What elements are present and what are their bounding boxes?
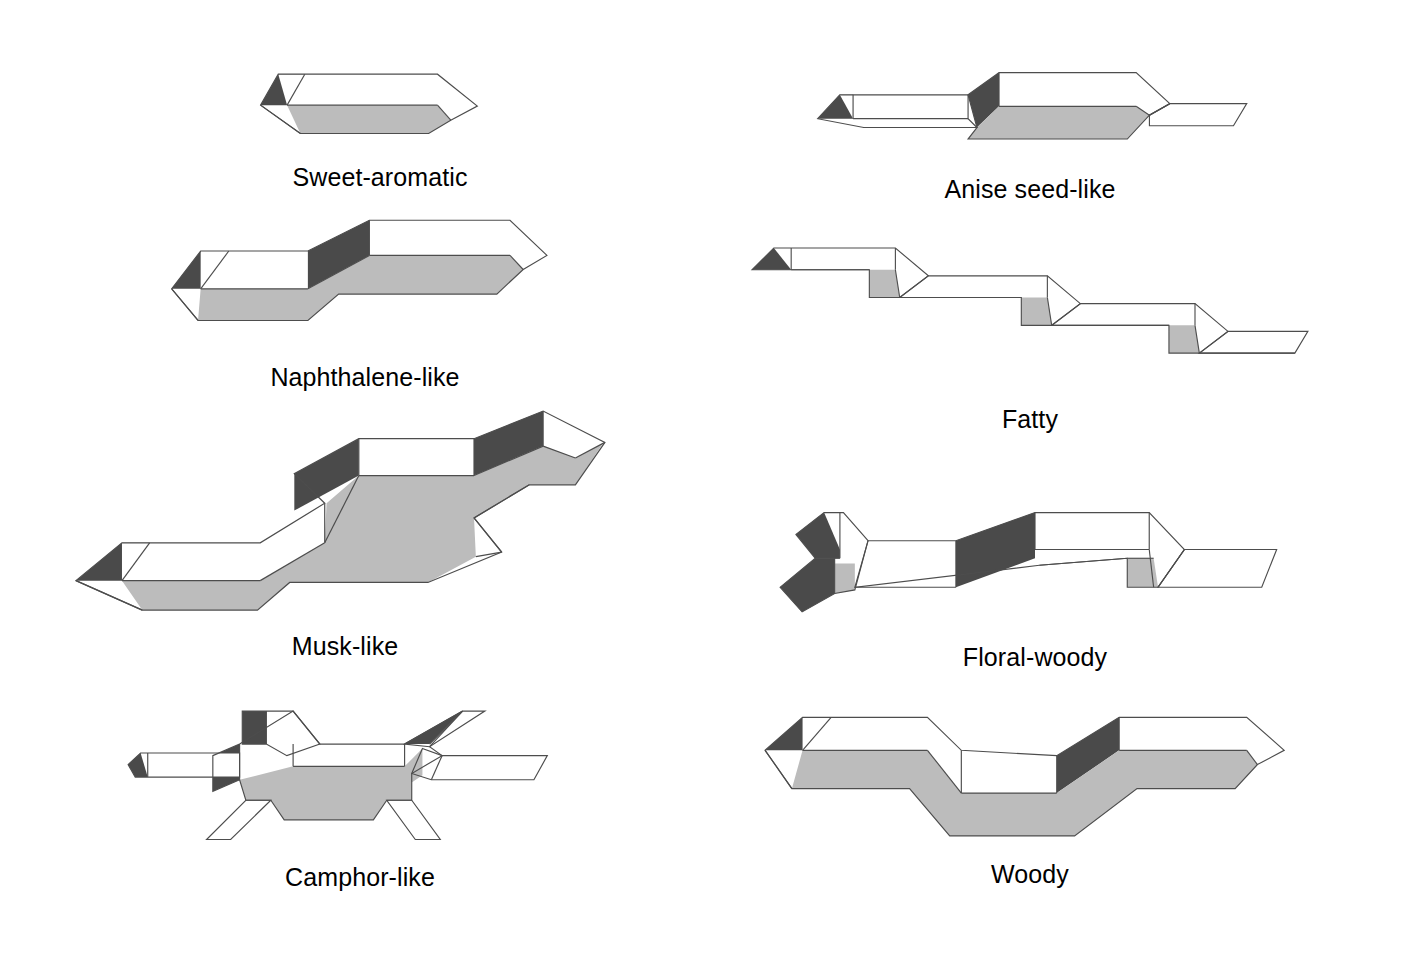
musk-like-edge-notch-a <box>474 518 502 552</box>
naphthalene-like-top-face-lower <box>201 251 308 289</box>
camphor-like-dark-arm-up-left <box>242 711 266 744</box>
musk-like-edge-notch-b <box>476 552 502 557</box>
woody-top-face-right <box>1119 717 1247 750</box>
floral-woody-top-face-1 <box>855 541 956 588</box>
floral-woody-top-face-2 <box>1035 513 1149 550</box>
shape-cell-anise-seed-like: Anise seed-like <box>770 55 1290 205</box>
anise-seed-like-side-face-left-arm <box>853 119 968 128</box>
shape-drawing-woody <box>715 695 1345 860</box>
shape-cell-woody: Woody <box>715 695 1345 895</box>
shape-drawing-sweet-aromatic <box>190 45 570 160</box>
shape-cell-musk-like: Musk-like <box>35 400 655 670</box>
woody-top-face-center <box>961 756 1056 793</box>
camphor-like-top-arm-down-left <box>207 800 271 839</box>
musk-like-top-face-upper <box>359 439 474 476</box>
shape-drawing-floral-woody <box>745 495 1325 640</box>
shape-cell-naphthalene-like: Naphthalene-like <box>120 215 610 395</box>
shape-drawing-anise-seed-like <box>770 55 1290 170</box>
camphor-like-top-arm-down-right <box>387 800 441 839</box>
shape-label-naphthalene-like: Naphthalene-like <box>120 363 610 392</box>
shape-drawing-camphor-like <box>100 695 620 860</box>
fatty-side-face-2 <box>1021 298 1051 326</box>
camphor-like-top-face-arm-left <box>141 753 240 777</box>
anise-seed-like-top-face-left-arm <box>840 95 968 119</box>
floral-woody-dark-riser-face <box>956 513 1035 588</box>
shape-cell-floral-woody: Floral-woody <box>745 495 1325 675</box>
shape-label-woody: Woody <box>715 860 1345 889</box>
musk-like-top-face-lower <box>122 543 260 581</box>
shape-label-fatty: Fatty <box>700 405 1360 434</box>
woody-edge-left-foot <box>765 750 792 788</box>
shape-label-sweet-aromatic: Sweet-aromatic <box>190 163 570 192</box>
odor-shape-figure: Sweet-aromaticAnise seed-likeNaphthalene… <box>0 0 1406 962</box>
shape-label-musk-like: Musk-like <box>35 632 655 661</box>
floral-woody-dark-stub-lower <box>780 558 834 612</box>
fatty-side-face-1 <box>869 270 899 298</box>
naphthalene-like-edge-left-foot <box>172 289 198 321</box>
shape-label-anise-seed-like: Anise seed-like <box>770 175 1290 204</box>
camphor-like-top-face-arm-right <box>431 756 547 780</box>
shape-label-camphor-like: Camphor-like <box>100 863 620 892</box>
shape-cell-camphor-like: Camphor-like <box>100 695 620 895</box>
shape-label-floral-woody: Floral-woody <box>745 643 1325 672</box>
fatty-side-face-3 <box>1169 325 1199 353</box>
shape-drawing-naphthalene-like <box>120 215 610 360</box>
sweet-aromatic-side-face <box>287 105 451 133</box>
woody-top-face-left <box>803 717 928 750</box>
shape-drawing-fatty <box>700 235 1360 400</box>
anise-seed-like-top-face-center <box>999 73 1136 107</box>
anise-seed-like-side-face-center <box>968 106 1149 139</box>
floral-woody-light-stub-wedge <box>835 564 855 594</box>
shape-drawing-musk-like <box>35 400 655 635</box>
naphthalene-like-top-face-upper <box>369 220 510 255</box>
fatty-top-face-1 <box>774 248 896 270</box>
shape-cell-fatty: Fatty <box>700 235 1360 435</box>
shape-cell-sweet-aromatic: Sweet-aromatic <box>190 45 570 195</box>
